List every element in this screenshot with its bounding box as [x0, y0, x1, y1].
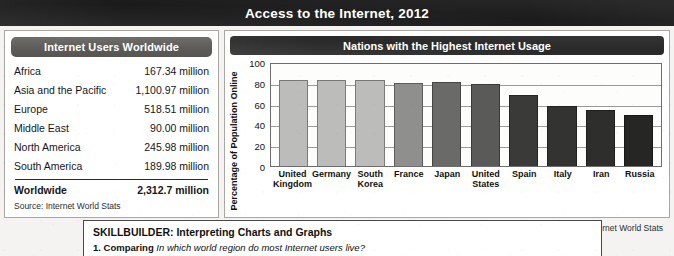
table-cell-region: Africa — [14, 62, 41, 81]
table-total-value: 2,312.7 million — [137, 180, 209, 200]
chart-plot-region — [270, 63, 662, 167]
chart-bar-slot — [466, 64, 504, 166]
table-cell-value: 245.98 million — [144, 138, 209, 157]
skillbuilder-box: SKILLBUILDER: Interpreting Charts and Gr… — [83, 220, 602, 256]
table-cell-value: 90.00 million — [150, 119, 209, 138]
table-source-note: Source: Internet World Stats — [5, 200, 218, 211]
chart-bar-slot — [389, 64, 427, 166]
table-total-label: Worldwide — [14, 180, 67, 200]
table-row: South America 189.98 million — [14, 157, 209, 176]
table-header-title: Internet Users Worldwide — [44, 41, 179, 53]
chart-bar — [471, 84, 500, 166]
chart-y-tick: 0 — [260, 162, 265, 173]
figure-page: Access to the Internet, 2012 Internet Us… — [0, 0, 674, 256]
chart-bar — [355, 80, 384, 166]
chart-bar-slot — [351, 64, 389, 166]
chart-bar — [432, 82, 461, 166]
chart-x-tick-label: Japan — [428, 169, 467, 189]
chart-bar — [624, 115, 653, 166]
chart-bar-slot — [274, 64, 312, 166]
table-cell-value: 1,100.97 million — [135, 81, 209, 100]
table-cell-value: 167.34 million — [144, 62, 209, 81]
internet-usage-chart-panel: Nations with the Highest Internet Usage … — [224, 30, 670, 218]
chart-bar-slot — [620, 64, 658, 166]
table-cell-region: South America — [14, 157, 82, 176]
chart-bar — [279, 80, 308, 166]
table-cell-region: North America — [14, 138, 81, 157]
chart-bar-slot — [504, 64, 542, 166]
chart-x-tick-label: United Kingdom — [273, 169, 312, 189]
skillbuilder-title: SKILLBUILDER: Interpreting Charts and Gr… — [93, 226, 592, 238]
chart-bar — [317, 80, 346, 166]
table-cell-region: Europe — [14, 100, 48, 119]
chart-x-tick-label: South Korea — [351, 169, 390, 189]
chart-x-axis-labels: United KingdomGermanySouth KoreaFranceJa… — [270, 169, 662, 189]
table-row: Asia and the Pacific 1,100.97 million — [14, 81, 209, 100]
table-row: Europe 518.51 million — [14, 100, 209, 119]
chart-y-axis-label-text: Percentage of Population Online — [229, 71, 239, 210]
chart-bar — [586, 110, 615, 166]
question-verb: Comparing — [104, 242, 154, 253]
chart-y-tick: 60 — [254, 99, 265, 110]
chart-bar — [547, 106, 576, 166]
chart-x-tick-label: Russia — [621, 169, 660, 189]
question-number: 1. — [93, 242, 101, 253]
chart-bar-slot — [543, 64, 581, 166]
chart-x-tick-label: Iran — [582, 169, 621, 189]
chart-x-tick-label: France — [390, 169, 429, 189]
chart-bar-slot — [312, 64, 350, 166]
table-cell-value: 189.98 million — [144, 157, 209, 176]
chart-x-tick-label: Germany — [312, 169, 351, 189]
question-text: In which world region do most Internet u… — [156, 242, 365, 253]
chart-bar — [394, 83, 423, 166]
chart-y-axis-label: Percentage of Population Online — [227, 91, 241, 191]
skillbuilder-question: 1. Comparing In which world region do mo… — [93, 242, 592, 253]
chart-x-tick-label: Italy — [544, 169, 583, 189]
table-body: Africa 167.34 million Asia and the Pacif… — [5, 57, 218, 200]
chart-header-title: Nations with the Highest Internet Usage — [343, 40, 551, 52]
chart-y-tick: 80 — [254, 78, 265, 89]
table-row: North America 245.98 million — [14, 138, 209, 157]
table-cell-value: 518.51 million — [144, 100, 209, 119]
chart-area: Percentage of Population Online 02040608… — [225, 57, 671, 217]
chart-bar — [509, 95, 538, 166]
chart-y-tick: 40 — [254, 120, 265, 131]
chart-bar-slot — [581, 64, 619, 166]
table-row: Africa 167.34 million — [14, 62, 209, 81]
table-row: Middle East 90.00 million — [14, 119, 209, 138]
chart-x-tick-label: United States — [467, 169, 506, 189]
chart-x-tick-label: Spain — [505, 169, 544, 189]
figure-banner: Access to the Internet, 2012 — [0, 0, 674, 26]
chart-y-axis-ticks: 020406080100 — [241, 63, 267, 167]
table-cell-region: Asia and the Pacific — [14, 81, 106, 100]
table-total-row: Worldwide 2,312.7 million — [14, 180, 209, 200]
chart-y-tick: 100 — [249, 58, 265, 69]
chart-bar-slot — [428, 64, 466, 166]
figure-title: Access to the Internet, 2012 — [245, 6, 429, 21]
chart-bars — [271, 64, 661, 166]
chart-header-bar: Nations with the Highest Internet Usage — [230, 36, 664, 55]
internet-users-table-panel: Internet Users Worldwide Africa 167.34 m… — [4, 30, 219, 218]
table-cell-region: Middle East — [14, 119, 69, 138]
chart-y-tick: 20 — [254, 141, 265, 152]
table-header-bar: Internet Users Worldwide — [11, 37, 212, 57]
